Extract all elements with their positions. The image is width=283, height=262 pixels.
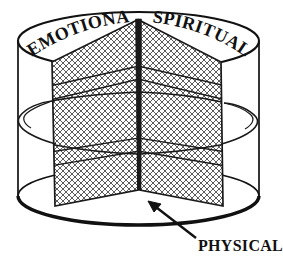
label-physical: PHYSICAL: [198, 237, 283, 254]
wellness-cylinder-figure: EMOTIONAL SPIRITUAL PHYSICAL: [0, 0, 283, 262]
physical-callout-arrow: [148, 201, 196, 238]
cylinder-diagram-canvas: EMOTIONAL SPIRITUAL PHYSICAL: [0, 0, 283, 262]
